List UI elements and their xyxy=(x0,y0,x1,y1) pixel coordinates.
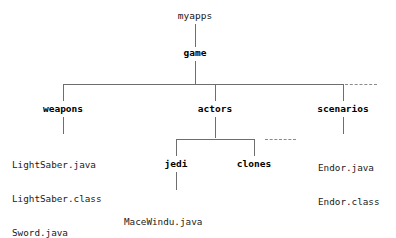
connector-bus-level4 xyxy=(176,139,255,140)
connector-bus-level4-continuation xyxy=(265,139,296,140)
connector-jedi-to-files xyxy=(176,172,177,190)
connector-bus-level3-continuation xyxy=(345,84,377,85)
connector-game-to-bus xyxy=(195,61,196,84)
node-scenarios: scenarios xyxy=(317,103,368,114)
node-clones: clones xyxy=(237,158,271,169)
node-game: game xyxy=(184,47,207,58)
connector-bus-to-jedi xyxy=(176,139,177,156)
connector-actors-to-bus xyxy=(215,117,216,138)
file-item: Endor.class xyxy=(318,196,380,207)
connector-myapps-to-game xyxy=(195,24,196,47)
directory-tree-diagram: myapps game weapons actors scenarios Lig… xyxy=(0,0,396,238)
connector-scenarios-to-files xyxy=(343,117,344,134)
node-jedi: jedi xyxy=(165,158,188,169)
file-item: LightSaber.class xyxy=(12,193,102,204)
file-item: Endor.java xyxy=(318,162,380,173)
node-weapons: weapons xyxy=(43,103,83,114)
connector-bus-to-clones xyxy=(254,139,255,156)
connector-bus-to-scenarios xyxy=(343,84,344,101)
node-myapps: myapps xyxy=(178,10,212,21)
file-list-weapons: LightSaber.java LightSaber.class Sword.j… xyxy=(12,137,102,238)
connector-bus-to-weapons xyxy=(63,84,64,101)
connector-bus-to-actors xyxy=(215,84,216,101)
file-item: Sword.java xyxy=(12,227,102,238)
connector-weapons-to-files xyxy=(63,117,64,134)
file-item: LightSaber.java xyxy=(12,159,102,170)
file-list-jedi: MaceWindu.java MaceWindu.class xyxy=(124,194,208,238)
node-actors: actors xyxy=(198,103,232,114)
file-item: MaceWindu.java xyxy=(124,216,208,227)
file-list-scenarios: Endor.java Endor.class xyxy=(318,140,380,230)
connector-bus-level3 xyxy=(63,84,343,85)
